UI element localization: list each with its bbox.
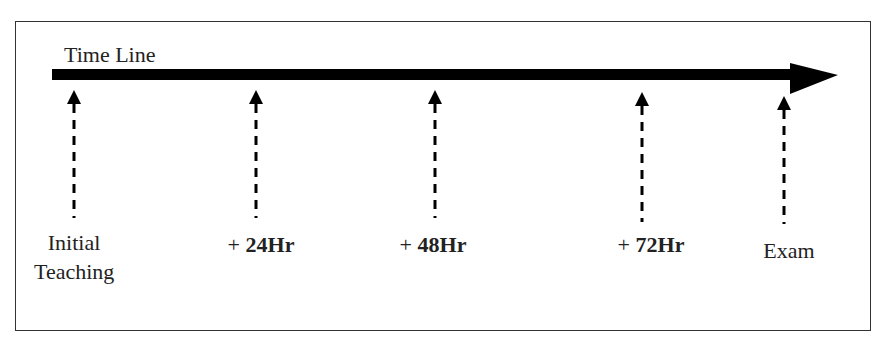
marker-label-initial-teaching: Initial Teaching (34, 228, 114, 286)
marker-label-24hr: + 24Hr (206, 230, 316, 259)
plus-prefix: + (228, 232, 246, 257)
label-line-1: Initial (34, 228, 114, 257)
marker-label-72hr: + 72Hr (596, 230, 706, 259)
marker-arrow-24hr (249, 90, 263, 218)
marker-label-exam: Exam (744, 236, 834, 265)
marker-arrow-72hr (635, 92, 649, 222)
plus-prefix: + (400, 232, 418, 257)
marker-arrow-exam (777, 96, 791, 224)
marker-label-text: 24Hr (246, 232, 295, 257)
marker-label-48hr: + 48Hr (378, 230, 488, 259)
timeline-arrowhead-icon (790, 63, 838, 94)
plus-prefix: + (618, 232, 636, 257)
marker-arrow-initial (67, 90, 81, 218)
timeline-graphic (0, 0, 886, 350)
marker-arrow-48hr (428, 90, 442, 218)
marker-label-text: 72Hr (636, 232, 685, 257)
marker-label-text: 48Hr (418, 232, 467, 257)
label-line-2: Teaching (34, 257, 114, 286)
timeline-axis (52, 69, 792, 80)
